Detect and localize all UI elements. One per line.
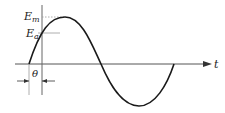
- peak-label: Em: [23, 10, 40, 24]
- time-axis-label: t: [214, 58, 219, 71]
- phase-label: θ: [32, 68, 38, 79]
- sine-diagram: t Em Ea θ: [0, 0, 225, 113]
- instant-label: Ea: [25, 27, 39, 41]
- phase-arrow-right-icon: [24, 79, 29, 83]
- time-axis-arrow-icon: [203, 61, 212, 67]
- sine-curve: [29, 17, 174, 106]
- phase-arrow-left-icon: [42, 79, 47, 83]
